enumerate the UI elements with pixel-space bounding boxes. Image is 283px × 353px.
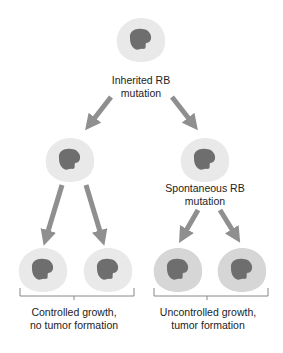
top-cell-label-line2: mutation [91,87,191,100]
arrow-midleft-to-bottom1 [46,185,62,238]
group-left-label-line2: no tumor formation [14,319,134,332]
arrow-midleft-to-bottom2 [86,185,102,238]
arrow-midright-to-bottom3 [183,210,198,236]
arrow-midright-to-bottom4 [220,210,236,236]
group-right-label: Uncontrolled growth, tumor formation [148,306,268,332]
bottom-cell-1 [19,248,67,292]
bottom-cell-2 [84,248,132,292]
mid-right-cell-label: Spontaneous RB mutation [155,182,255,208]
group-right-label-line2: tumor formation [148,319,268,332]
group-left-label-line1: Controlled growth, [14,306,134,319]
mid-right-label-line1: Spontaneous RB [155,182,255,195]
top-cell-label-line1: Inherited RB [91,74,191,87]
rb-mutation-diagram [0,0,283,353]
arrow-top-to-right [172,97,193,124]
top-cell-label: Inherited RB mutation [91,74,191,100]
group-left-label: Controlled growth, no tumor formation [14,306,134,332]
group-right-label-line1: Uncontrolled growth, [148,306,268,319]
mid-right-cell [181,138,229,182]
mid-left-cell [46,138,94,182]
top-cell [117,18,165,62]
arrow-top-to-left [90,97,111,124]
mid-right-label-line2: mutation [155,195,255,208]
bottom-cell-4 [218,248,266,292]
bottom-cell-3 [154,248,202,292]
